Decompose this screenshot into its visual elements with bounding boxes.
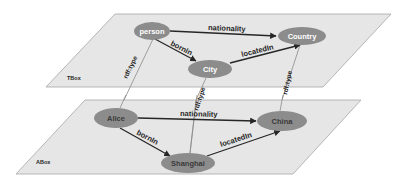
knowledge-graph-diagram: ABox TBox rdf:type rdf:type rdf:type [0,0,407,186]
node-label: Alice [107,114,125,123]
node-label: China [272,117,294,126]
node-label: City [203,65,218,74]
edge-label: nationality [208,23,247,34]
node-china[interactable]: China [257,111,307,131]
node-label: Shanghai [171,159,205,168]
node-alice[interactable]: Alice [94,108,138,128]
node-shanghai[interactable]: Shanghai [161,153,215,173]
node-label: Country [288,32,318,41]
node-person[interactable]: person [134,22,170,40]
node-country[interactable]: Country [278,27,326,45]
node-label: person [139,27,164,36]
node-city[interactable]: City [188,60,232,78]
edge-label: nationality [180,109,219,119]
tbox-label: TBox [67,75,82,81]
abox-label: ABox [36,159,51,165]
